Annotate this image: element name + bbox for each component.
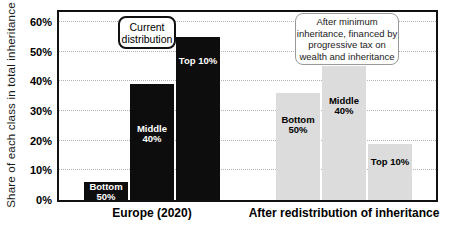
- x-axis-label-europe-2020: Europe (2020): [52, 206, 252, 220]
- y-tick-50: 50%: [0, 46, 52, 58]
- y-tick-30: 30%: [0, 105, 52, 117]
- bar-top-10--group1: Top 10%: [176, 37, 220, 200]
- plot-area: Bottom50%Middle40%Top 10% Bottom50%Middl…: [57, 10, 438, 202]
- bar-label: Bottom50%: [84, 182, 128, 200]
- bar-bottom-50--group1: Bottom50%: [84, 182, 128, 200]
- bar-label: Middle40%: [130, 84, 174, 144]
- annotation-line: After minimum: [296, 16, 398, 28]
- annotation-line: Current: [120, 21, 174, 33]
- bar-group-europe-2020: Bottom50%Middle40%Top 10%: [84, 37, 220, 200]
- y-tick-60: 60%: [0, 16, 52, 28]
- y-tick-40: 40%: [0, 75, 52, 87]
- bar-group-after-redistribution: Bottom50%Middle40%Top 10%: [276, 66, 412, 200]
- bar-middle-40--group2: Middle40%: [322, 66, 366, 200]
- bar-top-10--group2: Top 10%: [368, 144, 412, 200]
- bar-middle-40--group1: Middle40%: [130, 84, 174, 200]
- bar-label: Top 10%: [176, 37, 220, 66]
- x-axis-label-after-redistribution: After redistribution of inheritance: [244, 206, 444, 220]
- bar-label: Middle40%: [322, 66, 366, 116]
- y-tick-0: 0%: [0, 194, 52, 206]
- y-tick-20: 20%: [0, 135, 52, 147]
- inheritance-bar-chart: Share of each class in total inheritance…: [0, 0, 456, 230]
- annotation-line: progressive tax on: [296, 39, 398, 51]
- annotation-line: distribution: [120, 33, 174, 45]
- annotation-current-distribution: Currentdistribution: [118, 16, 176, 49]
- y-axis-tick-labels: 0%10%20%30%40%50%60%: [0, 10, 52, 202]
- annotation-line: wealth and inheritance: [296, 51, 398, 63]
- annotation-after-minimum-inheritance: After minimuminheritance, financed bypro…: [295, 13, 399, 65]
- bar-label: Bottom50%: [276, 93, 320, 135]
- y-tick-10: 10%: [0, 164, 52, 176]
- bar-bottom-50--group2: Bottom50%: [276, 93, 320, 200]
- bar-label: Top 10%: [368, 144, 412, 167]
- annotation-line: inheritance, financed by: [296, 28, 398, 40]
